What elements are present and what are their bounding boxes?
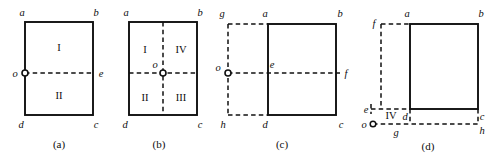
panel-a-region-1: I — [57, 42, 61, 53]
panel-b-region-1: I — [143, 44, 147, 55]
panel-a-label-c: c — [94, 119, 99, 130]
panel-a-label-b: b — [93, 7, 98, 18]
panel-d-label-c: c — [480, 111, 485, 122]
panel-b-region-2: II — [142, 92, 149, 103]
panel-a-caption: (a) — [53, 138, 66, 151]
panel-c-origin-marker — [225, 70, 231, 76]
panel-b-label-c: c — [198, 119, 203, 130]
panel-c-rectangle — [268, 24, 336, 115]
figure-root: a b c d e o I II (a) a b c d o — [0, 0, 494, 160]
panel-a-label-o: o — [12, 68, 17, 79]
panel-a-region-2: II — [56, 90, 63, 101]
panel-b-region-4: IV — [175, 44, 186, 55]
panel-b: a b c d o I IV II III (b) — [122, 7, 202, 151]
panel-b-region-3: III — [176, 92, 187, 103]
panel-a-origin-marker — [22, 70, 28, 76]
panel-b-label-b: b — [197, 7, 202, 18]
panel-c-label-c: c — [339, 119, 344, 130]
panel-d-label-e: e — [364, 104, 369, 115]
panel-d-rectangle — [410, 24, 478, 109]
panel-d-region-4: IV — [385, 110, 396, 121]
geometry-figure: a b c d e o I II (a) a b c d o — [0, 0, 494, 160]
panel-c: a b c d e f g h o (c) — [215, 8, 349, 151]
panel-d-label-d: d — [402, 111, 408, 122]
panel-d-label-a: a — [404, 8, 409, 19]
panel-a-label-d: d — [18, 119, 24, 130]
panel-d-label-b: b — [478, 8, 483, 19]
panel-d-label-g: g — [393, 127, 398, 138]
panel-a: a b c d e o I II (a) — [12, 7, 103, 151]
panel-a-rectangle — [25, 22, 93, 115]
panel-c-label-e: e — [270, 59, 275, 70]
panel-d: a b c d e f g h o IV (d) — [361, 8, 484, 153]
panel-c-label-d: d — [262, 119, 268, 130]
panel-c-label-a: a — [262, 8, 267, 19]
panel-d-label-o: o — [361, 119, 366, 130]
panel-b-label-a: a — [123, 7, 128, 18]
panel-b-origin-marker — [160, 70, 166, 76]
panel-d-label-f: f — [373, 18, 378, 29]
panel-c-label-g: g — [219, 8, 224, 19]
panel-b-label-d: d — [122, 119, 128, 130]
panel-d-origin-marker — [370, 121, 376, 127]
panel-c-caption: (c) — [276, 138, 289, 151]
panel-c-label-b: b — [337, 8, 342, 19]
panel-b-caption: (b) — [153, 138, 166, 151]
panel-c-label-o: o — [215, 62, 220, 73]
panel-d-caption: (d) — [422, 140, 435, 153]
panel-a-label-e: e — [99, 68, 104, 79]
panel-a-label-a: a — [19, 7, 24, 18]
panel-d-label-h: h — [479, 125, 484, 136]
panel-c-label-h: h — [220, 119, 225, 130]
panel-b-label-o: o — [152, 59, 157, 70]
panel-c-label-f: f — [345, 68, 350, 79]
